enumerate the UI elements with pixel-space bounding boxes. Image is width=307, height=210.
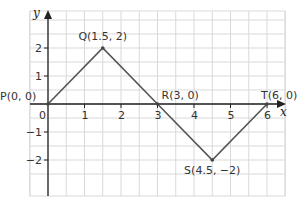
x-tick-label: 0: [39, 109, 46, 122]
x-axis-label: x: [280, 105, 287, 119]
y-tick-label: −2: [26, 154, 42, 167]
point-marker: [46, 102, 50, 106]
graph-chart: 0123456−2−112 P(0, 0)Q(1.5, 2)R(3, 0)S(4…: [0, 0, 307, 210]
point-marker: [156, 102, 160, 106]
x-tick-label: 4: [191, 109, 198, 122]
point-label-r: R(3, 0): [162, 89, 199, 102]
y-tick-label: 2: [35, 42, 42, 55]
point-label-q: Q(1.5, 2): [78, 30, 127, 43]
point-label-s: S(4.5, −2): [184, 164, 240, 177]
x-tick-label: 1: [82, 109, 89, 122]
point-marker: [210, 158, 214, 162]
x-tick-label: 5: [228, 109, 235, 122]
point-label-t: T(6, 0): [260, 89, 297, 102]
y-axis-label: y: [32, 6, 40, 20]
x-tick-label: 6: [264, 109, 271, 122]
point-label-p: P(0, 0): [0, 90, 36, 103]
point-marker: [101, 46, 105, 50]
y-tick-label: −1: [26, 126, 42, 139]
x-tick-label: 2: [118, 109, 125, 122]
y-tick-label: 1: [35, 70, 42, 83]
point-marker: [265, 102, 269, 106]
x-tick-label: 3: [155, 109, 162, 122]
